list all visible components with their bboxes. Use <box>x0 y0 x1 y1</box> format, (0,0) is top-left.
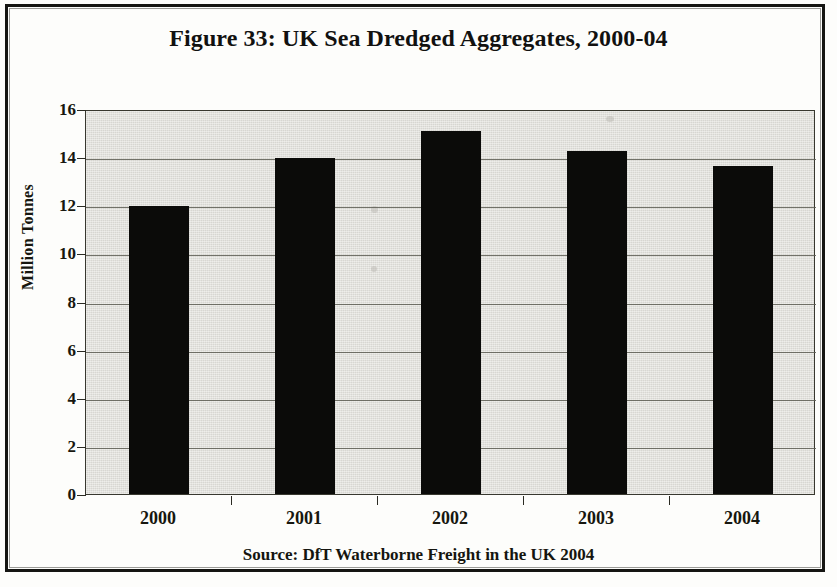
y-axis-tick-mark <box>77 447 86 448</box>
x-axis-tick-mark <box>231 496 232 505</box>
y-axis-tick-mark <box>77 351 86 352</box>
y-axis-tick-label: 14 <box>36 148 76 168</box>
y-axis-tick-label: 6 <box>36 341 76 361</box>
x-axis-tick-mark <box>523 496 524 505</box>
x-axis-tick-label: 2001 <box>244 508 364 529</box>
x-axis-tick-label: 2002 <box>390 508 510 529</box>
y-axis-tick-mark <box>77 158 86 159</box>
x-axis-tick-mark <box>377 496 378 505</box>
bar-2001 <box>275 158 335 494</box>
source-caption: Source: DfT Waterborne Freight in the UK… <box>0 545 837 565</box>
bar-2000 <box>129 206 189 494</box>
y-axis-title: Million Tonnes <box>19 137 37 337</box>
y-axis-tick-label: 16 <box>36 100 76 120</box>
y-axis-tick-label: 2 <box>36 437 76 457</box>
y-axis-tick-label: 12 <box>36 196 76 216</box>
x-axis-tick-mark <box>669 496 670 505</box>
bar-2003 <box>567 151 627 494</box>
scan-speck <box>606 116 614 122</box>
y-axis-tick-label: 4 <box>36 389 76 409</box>
x-axis-tick-label: 2004 <box>682 508 802 529</box>
bar-2002 <box>421 131 481 494</box>
y-axis-tick-label: 0 <box>36 485 76 505</box>
bar-2004 <box>713 166 773 494</box>
y-axis-tick-mark <box>77 110 86 111</box>
y-axis-tick-label: 10 <box>36 244 76 264</box>
y-axis-tick-mark <box>77 399 86 400</box>
y-axis-tick-mark <box>77 254 86 255</box>
y-axis-tick-mark <box>77 495 86 496</box>
x-axis-tick-label: 2000 <box>98 508 218 529</box>
chart-title: Figure 33: UK Sea Dredged Aggregates, 20… <box>0 25 837 52</box>
y-axis-tick-mark <box>77 303 86 304</box>
figure-container: Figure 33: UK Sea Dredged Aggregates, 20… <box>0 0 837 587</box>
scan-speck <box>371 266 377 272</box>
y-axis-tick-mark <box>77 206 86 207</box>
y-axis-tick-label: 8 <box>36 293 76 313</box>
x-axis-tick-label: 2003 <box>536 508 656 529</box>
plot-area <box>85 110 815 495</box>
